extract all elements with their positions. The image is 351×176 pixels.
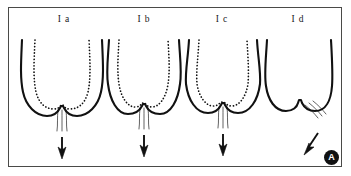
organ-outline-ib bbox=[107, 40, 181, 114]
panel-label-ic: I c bbox=[196, 14, 248, 24]
organ-outline-ia bbox=[21, 40, 103, 116]
plate-badge: A bbox=[324, 150, 339, 165]
arrow-head-id bbox=[304, 143, 314, 155]
lumen-dotted-outline-ib bbox=[118, 40, 169, 107]
panel-id bbox=[265, 40, 332, 155]
diagram-canvas bbox=[0, 0, 351, 176]
lumen-dotted-outline-ia bbox=[34, 40, 90, 109]
panel-label-ia: I a bbox=[38, 14, 90, 24]
panel-label-ib: I b bbox=[118, 14, 170, 24]
panel-ib bbox=[107, 40, 181, 157]
panels-layer bbox=[21, 40, 332, 159]
panel-ia bbox=[21, 40, 103, 159]
panel-ic bbox=[186, 40, 260, 156]
lumen-dotted-outline-ic bbox=[197, 40, 249, 106]
figure-root: I a I b I c I d A bbox=[0, 0, 351, 176]
organ-outline-id bbox=[265, 40, 332, 111]
panel-label-id: I d bbox=[272, 14, 324, 24]
